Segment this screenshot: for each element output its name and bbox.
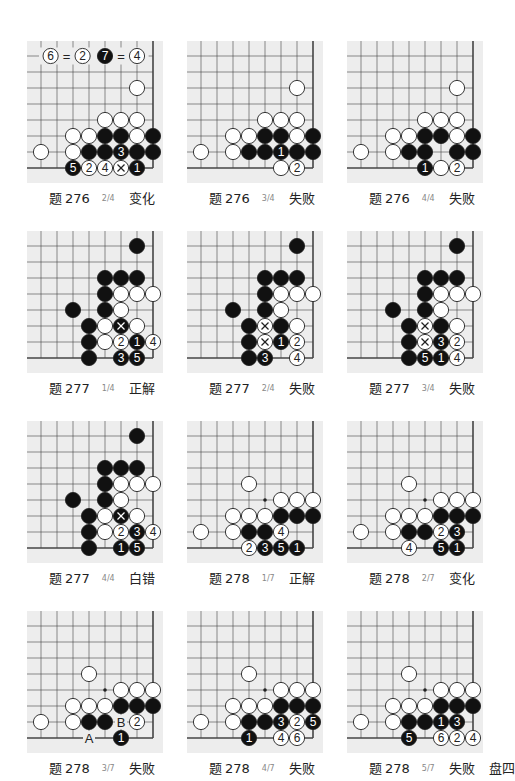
black-stone xyxy=(385,302,400,317)
white-stone: 4 xyxy=(465,730,480,745)
white-stone xyxy=(65,144,80,159)
move-number: 2 xyxy=(294,335,301,349)
move-number: 1 xyxy=(134,335,141,349)
point-label: B xyxy=(117,715,126,730)
white-stone xyxy=(81,698,96,713)
black-stone xyxy=(289,270,304,285)
diagram-fraction: 4/4 xyxy=(102,574,115,583)
diagram-fraction: 2/4 xyxy=(102,194,115,203)
black-stone xyxy=(273,508,288,523)
white-stone xyxy=(417,112,432,127)
white-stone xyxy=(241,508,256,523)
white-stone xyxy=(449,286,464,301)
white-stone xyxy=(449,112,464,127)
problem-number: 277 xyxy=(225,381,250,396)
black-stone: 1 xyxy=(433,714,448,729)
move-number: 5 xyxy=(70,161,77,175)
diagram-panel: 23415题2774/4白错 xyxy=(27,421,187,601)
white-stone xyxy=(385,714,400,729)
go-board: 21435 xyxy=(27,231,163,373)
black-stone xyxy=(401,334,416,349)
black-stone xyxy=(113,270,128,285)
move-number: 3 xyxy=(262,351,269,365)
move-number: 1 xyxy=(118,541,125,555)
move-number: 1 xyxy=(438,351,445,365)
move-number: 4 xyxy=(134,49,141,63)
move-number: 3 xyxy=(118,145,125,159)
black-stone xyxy=(401,350,416,365)
move-number: 3 xyxy=(262,541,269,555)
white-stone xyxy=(113,492,128,507)
black-stone: 3 xyxy=(113,144,128,159)
black-stone xyxy=(145,698,160,713)
white-stone xyxy=(273,302,288,317)
black-stone xyxy=(433,270,448,285)
white-stone xyxy=(401,508,416,523)
black-stone: 3 xyxy=(433,334,448,349)
black-stone xyxy=(289,508,304,523)
black-stone xyxy=(145,144,160,159)
problem-number: 278 xyxy=(385,761,410,776)
white-stone xyxy=(145,476,160,491)
caption-prefix: 题 xyxy=(49,571,62,586)
caption-prefix: 题 xyxy=(209,191,222,206)
black-stone xyxy=(241,714,256,729)
black-stone xyxy=(81,540,96,555)
white-stone xyxy=(113,682,128,697)
white-stone xyxy=(401,128,416,143)
black-stone xyxy=(257,302,272,317)
black-stone xyxy=(401,714,416,729)
white-stone xyxy=(113,112,128,127)
white-stone xyxy=(385,508,400,523)
move-number: 1 xyxy=(438,715,445,729)
white-stone xyxy=(273,286,288,301)
diagram-result: 失败 xyxy=(449,191,475,206)
diagram-caption: 题2773/4失败 xyxy=(347,378,507,397)
black-stone xyxy=(433,698,448,713)
white-stone xyxy=(305,682,320,697)
problem-number: 277 xyxy=(65,381,90,396)
black-stone xyxy=(241,524,256,539)
black-stone: 1 xyxy=(449,540,464,555)
white-stone xyxy=(257,112,272,127)
white-stone xyxy=(417,508,432,523)
move-number: 2 xyxy=(134,715,141,729)
white-stone xyxy=(241,128,256,143)
move-number: 2 xyxy=(86,161,93,175)
black-stone xyxy=(305,508,320,523)
caption-prefix: 题 xyxy=(209,571,222,586)
black-stone: 3 xyxy=(273,714,288,729)
black-stone xyxy=(97,144,112,159)
move-number: 5 xyxy=(310,715,317,729)
white-stone: 2 xyxy=(241,540,256,555)
move-number: 1 xyxy=(278,145,285,159)
white-stone xyxy=(289,112,304,127)
diagram-caption: 题2781/7正解 xyxy=(187,568,347,587)
black-stone: 5 xyxy=(273,540,288,555)
caption-prefix: 题 xyxy=(369,571,382,586)
black-stone xyxy=(273,318,288,333)
move-number: 1 xyxy=(246,731,253,745)
equals-sign: = xyxy=(63,49,71,64)
white-stone xyxy=(289,286,304,301)
white-stone xyxy=(97,112,112,127)
move-number: 2 xyxy=(294,161,301,175)
black-stone xyxy=(449,238,464,253)
move-number: 5 xyxy=(406,731,413,745)
black-stone xyxy=(81,508,96,523)
black-stone xyxy=(257,128,272,143)
black-stone xyxy=(129,144,144,159)
go-board: 23415 xyxy=(27,421,163,563)
black-stone xyxy=(257,286,272,301)
white-stone xyxy=(97,334,112,349)
equals-sign: = xyxy=(117,49,125,64)
black-stone xyxy=(225,302,240,317)
black-stone: 5 xyxy=(401,730,416,745)
problem-number: 278 xyxy=(65,761,90,776)
diagram-panel: 135624题2785/7失败盘四 xyxy=(347,611,507,781)
black-stone-x-mark-icon xyxy=(113,318,128,333)
diagram-panel: 23451题2782/7变化 xyxy=(347,421,507,601)
black-stone xyxy=(273,128,288,143)
diagram-caption: 题2763/4失败 xyxy=(187,188,347,207)
diagram-caption: 题2784/7失败 xyxy=(187,758,347,777)
